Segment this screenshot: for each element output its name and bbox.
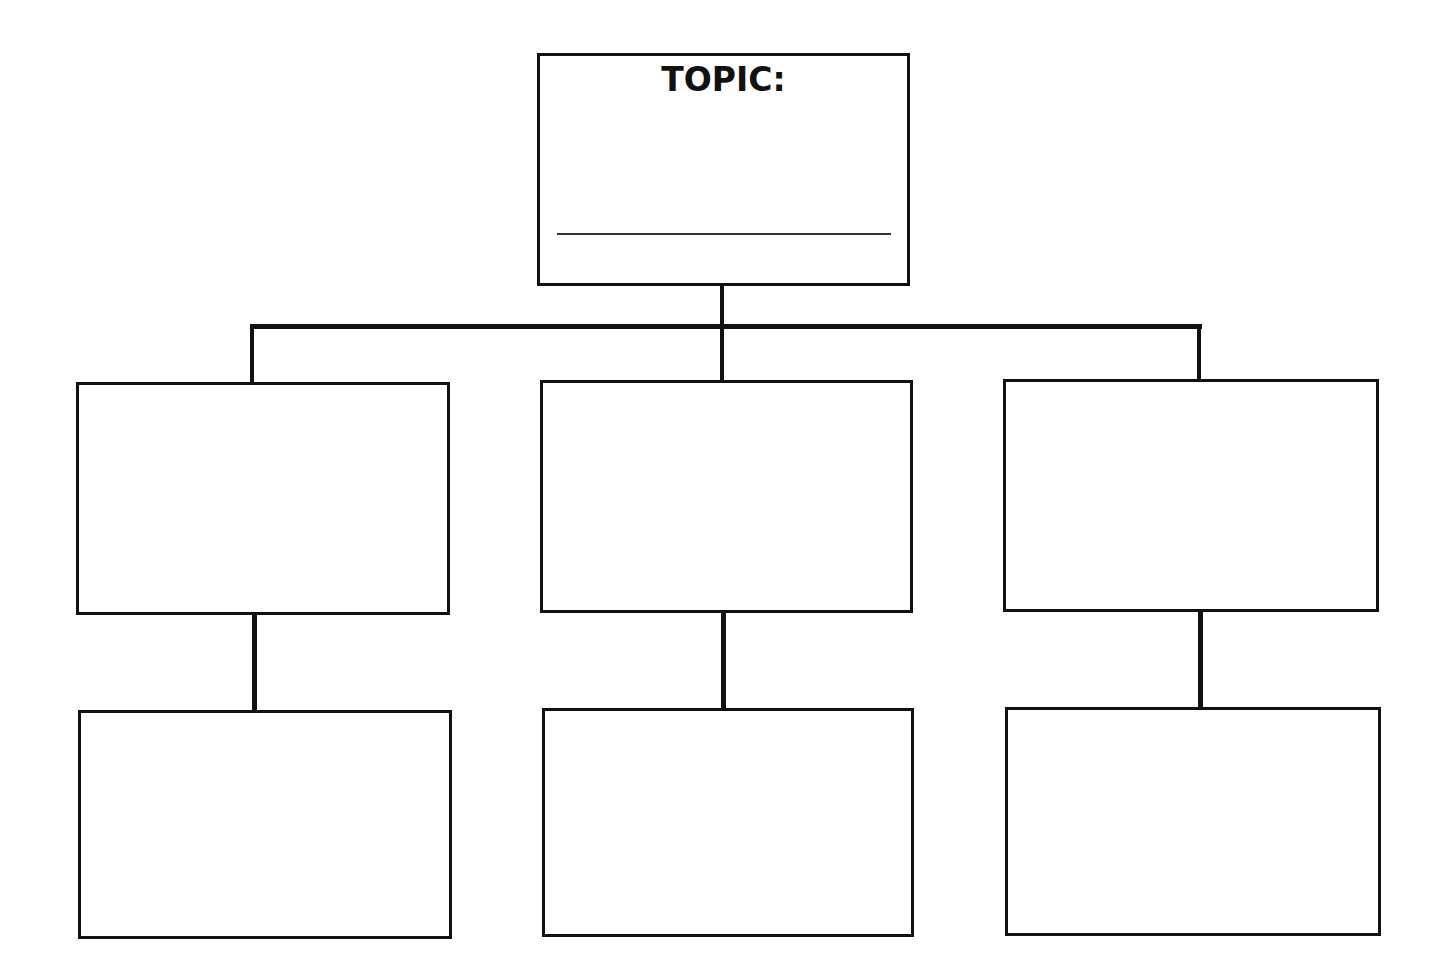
detail-box-1 <box>78 710 452 939</box>
topic-write-line <box>557 233 891 235</box>
detail-box-2 <box>542 708 914 937</box>
branch-middle-connector <box>720 325 724 381</box>
subtopic-box-3 <box>1003 379 1379 612</box>
detail-left-connector <box>252 614 257 711</box>
topic-stem-connector <box>720 285 724 327</box>
detail-right-connector <box>1198 611 1203 708</box>
horizontal-branch-connector <box>250 324 1202 329</box>
subtopic-box-1 <box>76 382 450 615</box>
detail-middle-connector <box>721 612 726 709</box>
subtopic-box-2 <box>540 380 913 613</box>
branch-right-connector <box>1197 324 1201 380</box>
topic-box: TOPIC: <box>537 53 910 286</box>
topic-label: TOPIC: <box>540 60 907 99</box>
branch-left-connector <box>250 325 254 383</box>
detail-box-3 <box>1005 707 1381 936</box>
